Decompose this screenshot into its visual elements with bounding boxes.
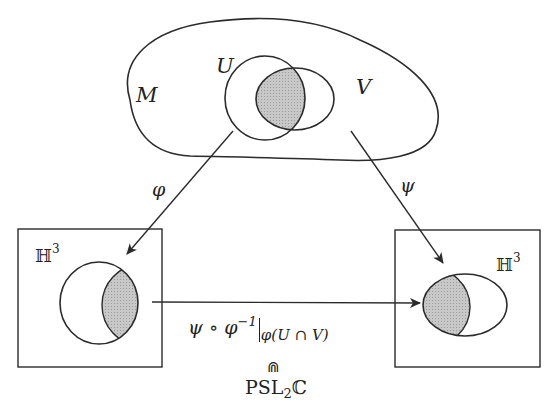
open-set-u-label: U xyxy=(216,56,234,77)
group-field: ℂ xyxy=(292,376,307,398)
membership-symbol: ⋒ xyxy=(267,360,280,375)
open-set-v-label: V xyxy=(356,77,371,98)
hyperbolic-space-symbol: ℍ xyxy=(35,245,52,266)
psi-arrow xyxy=(351,131,443,263)
restriction-bar xyxy=(259,318,260,342)
inverse-exponent: −1 xyxy=(238,314,257,329)
dimension-exponent: 3 xyxy=(52,242,60,256)
dimension-exponent: 3 xyxy=(513,251,521,265)
right-h3-label: ℍ3 xyxy=(496,254,521,274)
phi-arrow xyxy=(127,131,233,254)
psi-label: ψ xyxy=(400,176,415,195)
restriction-domain: φ(U ∩ V) xyxy=(261,326,329,344)
transition-map-label: ψ ∘ φ−1φ(U ∩ V) xyxy=(188,318,329,342)
phi-label: φ xyxy=(152,180,165,199)
diagram-canvas xyxy=(0,0,551,410)
transition-arrow xyxy=(152,302,420,303)
group-label: PSL2ℂ xyxy=(245,378,307,397)
left-image-shading xyxy=(102,265,178,345)
manifold-label: M xyxy=(136,85,158,106)
transition-composition: ψ ∘ φ xyxy=(188,316,238,338)
hyperbolic-space-symbol: ℍ xyxy=(496,254,513,275)
group-subscript: 2 xyxy=(283,386,291,401)
left-h3-label: ℍ3 xyxy=(35,245,60,265)
group-name: PSL xyxy=(245,376,283,398)
